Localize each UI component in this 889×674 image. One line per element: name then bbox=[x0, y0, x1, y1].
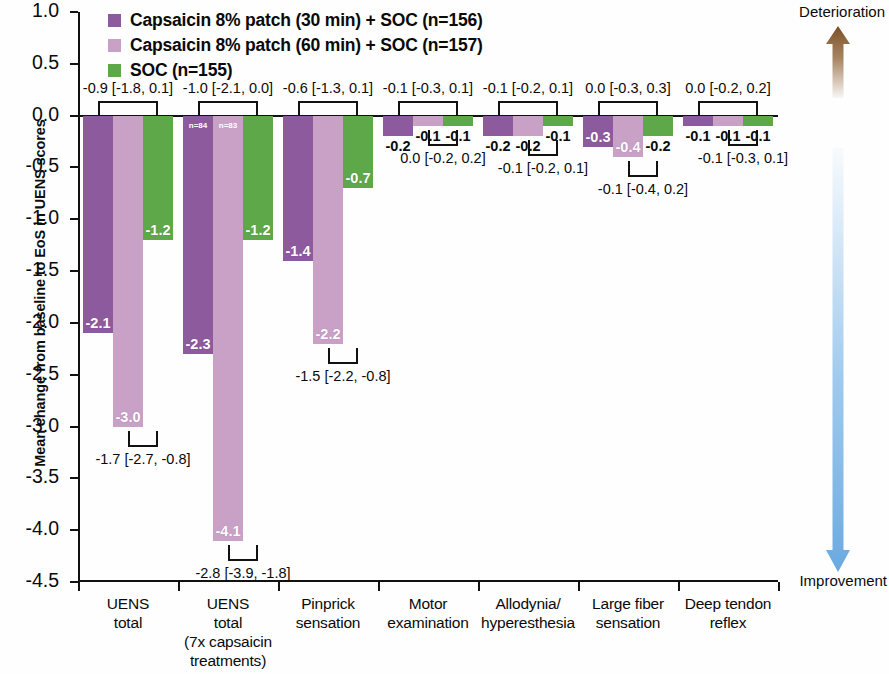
bar-value-label: -2.2 bbox=[316, 326, 341, 342]
legend-item: SOC (n=155) bbox=[108, 58, 483, 83]
ci-bracket-bottom bbox=[228, 545, 258, 561]
y-tick-label: 0.5 bbox=[0, 51, 59, 74]
x-axis-category-line: UENS bbox=[78, 594, 178, 613]
ci-label-bottom: -2.8 [-3.9, -1.8] bbox=[195, 565, 290, 581]
y-tick: 0.5 bbox=[70, 63, 78, 65]
improvement-arrow-icon bbox=[825, 148, 851, 572]
legend-label-soc: SOC (n=155) bbox=[130, 60, 232, 81]
ci-bracket-top bbox=[498, 101, 558, 116]
ci-label-bottom: -0.1 [-0.4, 0.2] bbox=[598, 181, 688, 197]
bar[interactable]: -0.1 bbox=[413, 116, 443, 126]
bar[interactable]: -0.4 bbox=[613, 116, 643, 157]
bar[interactable]: -2.3n=84 bbox=[183, 116, 213, 354]
x-axis-tick bbox=[178, 582, 180, 591]
legend-swatch-capsaicin-30min bbox=[108, 14, 121, 27]
bar[interactable]: -4.1n=83 bbox=[213, 116, 243, 541]
y-tick: 0.0 bbox=[70, 115, 78, 117]
bar[interactable]: -0.2 bbox=[513, 116, 543, 137]
x-axis-category-label: UENStotal(7x capsaicintreatments) bbox=[178, 594, 278, 670]
bar-value-label: -0.2 bbox=[646, 138, 671, 154]
legend-item: Capsaicin 8% patch (60 min) + SOC (n=157… bbox=[108, 33, 483, 58]
bar-value-label: -0.4 bbox=[616, 139, 641, 155]
bar[interactable]: -0.3 bbox=[583, 116, 613, 147]
bar[interactable]: -0.1 bbox=[743, 116, 773, 126]
bar[interactable]: -0.7 bbox=[343, 116, 373, 189]
bar-group: -0.3-0.4-0.2 bbox=[578, 12, 678, 582]
x-axis-category-line: examination bbox=[378, 613, 478, 632]
bar-value-label: -0.2 bbox=[486, 138, 511, 154]
bar[interactable]: -2.2 bbox=[313, 116, 343, 344]
ci-bracket-bottom bbox=[328, 348, 358, 364]
bar[interactable]: -0.1 bbox=[683, 116, 713, 126]
ci-bracket-bottom bbox=[628, 161, 658, 177]
ci-bracket-top bbox=[298, 101, 358, 116]
bar[interactable]: -0.1 bbox=[443, 116, 473, 126]
bar[interactable]: -3.0 bbox=[113, 116, 143, 427]
x-axis-tick bbox=[678, 582, 680, 591]
x-axis-category-line: total bbox=[78, 613, 178, 632]
bar[interactable]: -0.1 bbox=[713, 116, 743, 126]
legend-item: Capsaicin 8% patch (30 min) + SOC (n=156… bbox=[108, 8, 483, 33]
legend-swatch-capsaicin-60min bbox=[108, 39, 121, 52]
chart-figure: Mean change from baseline to EoS in UENS… bbox=[0, 0, 889, 674]
bar-group: -2.3n=84-4.1n=83-1.2 bbox=[178, 12, 278, 582]
ci-label-top: 0.0 [-0.2, 0.2] bbox=[685, 80, 770, 96]
x-axis-category-line: Allodynia/ bbox=[478, 594, 578, 613]
plot-area: 1.00.50.0-0.5-1.0-1.5-2.0-2.5-3.0-3.5-4.… bbox=[78, 12, 778, 582]
legend-label-capsaicin-60min: Capsaicin 8% patch (60 min) + SOC (n=157… bbox=[130, 35, 483, 56]
bar-value-label: -4.1 bbox=[216, 523, 241, 539]
x-axis-category-line: (7x capsaicin bbox=[178, 632, 278, 651]
deterioration-label: Deterioration bbox=[799, 3, 885, 20]
bar-value-label: -1.2 bbox=[246, 222, 271, 238]
legend-swatch-soc bbox=[108, 64, 121, 77]
ci-label-bottom: -1.7 [-2.7, -0.8] bbox=[95, 451, 190, 467]
bar[interactable]: -1.2 bbox=[143, 116, 173, 240]
ci-bracket-bottom bbox=[428, 130, 458, 146]
ci-bracket-top bbox=[198, 101, 258, 116]
bar[interactable]: -1.4 bbox=[283, 116, 313, 261]
ci-bracket-bottom bbox=[728, 130, 758, 146]
bar[interactable]: -0.2 bbox=[383, 116, 413, 137]
y-tick: -1.5 bbox=[70, 270, 78, 272]
y-tick: -1.0 bbox=[70, 218, 78, 220]
x-axis-category-line: Large fiber bbox=[578, 594, 678, 613]
x-axis-tick bbox=[378, 582, 380, 591]
legend-label-capsaicin-30min: Capsaicin 8% patch (30 min) + SOC (n=156… bbox=[130, 10, 483, 31]
bar[interactable]: -0.2 bbox=[643, 116, 673, 137]
x-axis-tick bbox=[278, 582, 280, 591]
bar-value-label: -0.3 bbox=[586, 129, 611, 145]
x-axis-category-line: reflex bbox=[678, 613, 778, 632]
y-tick: -2.5 bbox=[70, 374, 78, 376]
x-axis-category-label: Allodynia/hyperesthesia bbox=[478, 594, 578, 632]
ci-bracket-top bbox=[598, 101, 658, 116]
x-axis-category-line: sensation bbox=[278, 613, 378, 632]
x-axis-category-line: UENS bbox=[178, 594, 278, 613]
y-tick: -2.0 bbox=[70, 322, 78, 324]
bar[interactable]: -1.2 bbox=[243, 116, 273, 240]
x-axis-category-line: hyperesthesia bbox=[478, 613, 578, 632]
ci-bracket-top bbox=[98, 101, 158, 116]
ci-bracket-top bbox=[398, 101, 458, 116]
ci-bracket-top bbox=[698, 101, 758, 116]
x-axis-tick bbox=[78, 582, 80, 591]
ci-label-top: -0.1 [-0.2, 0.1] bbox=[483, 80, 573, 96]
ci-label-bottom: -1.5 [-2.2, -0.8] bbox=[295, 368, 390, 384]
bar-group: -0.2-0.1-0.1 bbox=[378, 12, 478, 582]
y-tick-label: 1.0 bbox=[0, 0, 59, 22]
y-tick: -3.0 bbox=[70, 426, 78, 428]
bar-value-label: -3.0 bbox=[116, 409, 141, 425]
bar[interactable]: -0.1 bbox=[543, 116, 573, 126]
improvement-label: Improvement bbox=[799, 572, 887, 589]
x-axis-tick bbox=[778, 582, 780, 591]
x-axis-tick bbox=[478, 582, 480, 591]
y-tick: -0.5 bbox=[70, 166, 78, 168]
bar-group: -0.2-0.2-0.1 bbox=[478, 12, 578, 582]
y-tick: 1.0 bbox=[70, 11, 78, 13]
bar[interactable]: -0.2 bbox=[483, 116, 513, 137]
x-axis-tick bbox=[578, 582, 580, 591]
bar[interactable]: -2.1 bbox=[83, 116, 113, 334]
y-tick-label: -3.5 bbox=[0, 465, 59, 488]
y-tick: -3.5 bbox=[70, 477, 78, 479]
y-tick-label: -1.5 bbox=[0, 258, 59, 281]
y-tick-label: 0.0 bbox=[0, 103, 59, 126]
